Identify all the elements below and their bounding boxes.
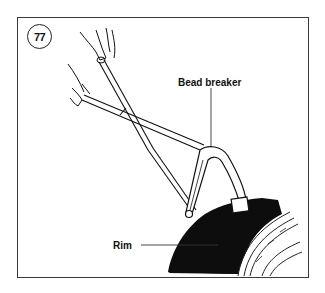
- hand-lower: [68, 64, 90, 106]
- rim-label: Rim: [113, 240, 132, 251]
- bead-breaker-tool: [186, 147, 249, 218]
- bead-breaker-illustration: [0, 0, 325, 293]
- hand-upper: [80, 28, 115, 63]
- bead-breaker-label: Bead breaker: [178, 77, 241, 88]
